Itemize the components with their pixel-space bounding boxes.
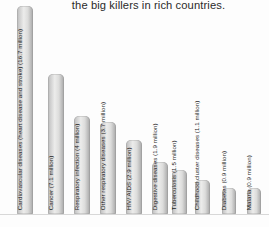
chart-title: the big killers in rich countries. (0, 0, 269, 12)
bar[interactable] (17, 6, 33, 214)
bar[interactable] (126, 140, 142, 214)
plot-area: Cardiovascular diseases (heart disease a… (0, 14, 269, 215)
bar[interactable] (222, 188, 236, 214)
bar-chart: the big killers in rich countries. Cardi… (0, 0, 269, 227)
bar[interactable] (195, 180, 210, 214)
bar-series: Cardiovascular diseases (heart disease a… (0, 14, 269, 214)
bar-slot: Diabetes (0.9 million) (222, 14, 236, 214)
bar[interactable] (100, 122, 116, 214)
bar[interactable] (48, 74, 64, 214)
bar-slot: HIV/ AIDS (2.9 million) (126, 14, 142, 214)
bar-slot: Tuberculosis (1.5 million) (172, 14, 187, 214)
bar[interactable] (74, 116, 90, 214)
x-axis-baseline (0, 214, 269, 215)
bar-slot: Respiratory infection (4 million) (74, 14, 90, 214)
bar-slot: Digestive diseases (1.9 million) (152, 14, 168, 214)
bar[interactable] (152, 162, 168, 214)
bar[interactable] (247, 188, 261, 214)
bar-slot: Childhood cluster diseases (1.1 million) (195, 14, 210, 214)
bar-slot: Other respiratory diseases (3.7 million) (100, 14, 116, 214)
bar[interactable] (172, 170, 187, 214)
bar-slot: Cancer (7.1 million) (48, 14, 64, 214)
bar-slot: Malaria (0.9 million) (247, 14, 261, 214)
bar-slot: Cardiovascular diseases (heart disease a… (17, 14, 33, 214)
